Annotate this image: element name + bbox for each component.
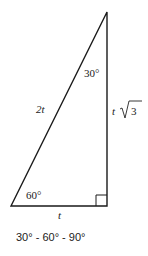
angle-label-60: 60° <box>26 189 41 201</box>
triangle-diagram <box>0 0 148 256</box>
short-leg-label: t <box>58 209 61 221</box>
angle-label-30: 30° <box>84 67 99 79</box>
long-leg-radicand: 3 <box>131 105 137 117</box>
right-angle-marker <box>96 195 107 206</box>
long-leg-coefficient: t <box>112 105 115 117</box>
triangle-shape <box>11 12 107 206</box>
hypotenuse-label: 2t <box>36 103 45 115</box>
diagram-caption: 30° - 60° - 90° <box>16 231 85 243</box>
